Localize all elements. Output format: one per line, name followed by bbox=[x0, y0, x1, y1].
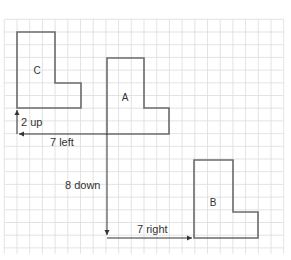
arrow-7-right-label: 7 right bbox=[137, 223, 168, 235]
arrow-7-left: 7 left bbox=[19, 134, 107, 148]
shape-b-label: B bbox=[210, 197, 217, 208]
arrow-2-up-label: 2 up bbox=[21, 116, 42, 128]
shape-a-label: A bbox=[122, 92, 129, 103]
translation-diagram: C A B 2 up 7 left 8 down 7 right bbox=[0, 0, 291, 260]
grid-background bbox=[4, 19, 283, 254]
shape-c-label: C bbox=[33, 65, 40, 76]
arrow-7-left-label: 7 left bbox=[50, 136, 74, 148]
shape-a: A bbox=[107, 58, 169, 134]
arrow-8-down-label: 8 down bbox=[65, 179, 100, 191]
arrow-7-right: 7 right bbox=[107, 223, 192, 238]
